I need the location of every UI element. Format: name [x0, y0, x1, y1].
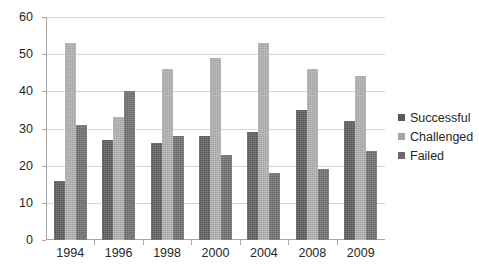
bar-group — [151, 17, 184, 240]
y-tick-label: 50 — [19, 48, 33, 60]
bar-successful-2009 — [344, 121, 355, 240]
bar-successful-2000 — [199, 136, 210, 240]
bar-failed-2008 — [318, 169, 329, 240]
y-tick-label: 10 — [19, 197, 33, 209]
bar-challenged-1996 — [113, 117, 124, 240]
bar-challenged-2004 — [258, 43, 269, 240]
bar-failed-2004 — [269, 173, 280, 240]
legend-item-successful[interactable]: Successful — [398, 108, 478, 127]
x-tick-label-2009: 2009 — [337, 246, 385, 260]
legend-item-failed[interactable]: Failed — [398, 146, 478, 165]
chart-legend: SuccessfulChallengedFailed — [398, 108, 478, 165]
x-tick-label-1998: 1998 — [143, 246, 191, 260]
x-tick-separator — [288, 240, 289, 245]
bar-successful-2004 — [247, 132, 258, 240]
y-tick-label: 30 — [19, 123, 33, 135]
bar-successful-2008 — [296, 110, 307, 240]
bar-failed-1998 — [173, 136, 184, 240]
bar-successful-1996 — [102, 140, 113, 240]
x-tick-separator — [240, 240, 241, 245]
bar-group — [199, 17, 232, 240]
bar-failed-2000 — [221, 155, 232, 240]
y-tick-label: 0 — [26, 234, 33, 246]
bars-layer — [46, 17, 385, 240]
bar-challenged-2008 — [307, 69, 318, 240]
bar-challenged-2009 — [355, 76, 366, 240]
bar-failed-2009 — [366, 151, 377, 240]
x-tick-label-2000: 2000 — [191, 246, 239, 260]
x-tick-label-2004: 2004 — [240, 246, 288, 260]
bar-group — [296, 17, 329, 240]
x-tick-label-1994: 1994 — [46, 246, 94, 260]
x-tick-separator — [337, 240, 338, 245]
legend-item-challenged[interactable]: Challenged — [398, 127, 478, 146]
x-tick-label-2008: 2008 — [288, 246, 336, 260]
x-tick-separator — [94, 240, 95, 245]
y-tick-label: 60 — [19, 11, 33, 23]
bar-successful-1998 — [151, 143, 162, 240]
bar-chart: 0102030405060 19941996199820002004200820… — [0, 0, 479, 279]
x-tick-separator — [143, 240, 144, 245]
bar-challenged-2000 — [210, 58, 221, 240]
y-tick-mark — [42, 240, 46, 241]
bar-group — [247, 17, 280, 240]
bar-failed-1994 — [76, 125, 87, 240]
bar-challenged-1994 — [65, 43, 76, 240]
bar-group — [54, 17, 87, 240]
legend-swatch-icon — [398, 152, 405, 159]
y-axis: 0102030405060 — [0, 0, 42, 279]
legend-label: Successful — [410, 111, 470, 125]
legend-swatch-icon — [398, 114, 405, 121]
bar-group — [102, 17, 135, 240]
legend-label: Challenged — [410, 130, 473, 144]
legend-label: Failed — [410, 149, 444, 163]
bar-group — [344, 17, 377, 240]
bar-failed-1996 — [124, 91, 135, 240]
y-tick-label: 20 — [19, 160, 33, 172]
legend-swatch-icon — [398, 133, 405, 140]
bar-challenged-1998 — [162, 69, 173, 240]
x-tick-separator — [191, 240, 192, 245]
bar-successful-1994 — [54, 181, 65, 240]
x-axis: 1994199619982000200420082009 — [46, 246, 385, 266]
x-tick-label-1996: 1996 — [94, 246, 142, 260]
y-tick-label: 40 — [19, 85, 33, 97]
